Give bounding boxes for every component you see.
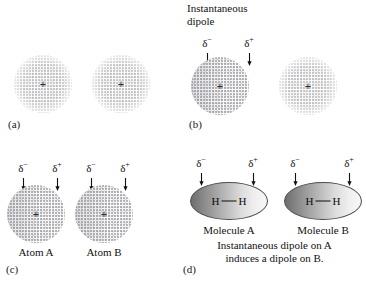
subcaption-line-1: Instantaneous dipole on A: [183, 239, 366, 252]
heading-line-2: dipole: [187, 15, 247, 28]
hydrogen-atom-left: H: [306, 196, 314, 207]
hydrogen-atom-right: H: [333, 196, 341, 207]
electron-cloud-b-left: +: [191, 57, 249, 115]
molecule-a-label: Molecule A: [189, 224, 269, 236]
molecule-a: H H: [190, 182, 268, 220]
delta-negative-symbol: δ−: [202, 37, 212, 49]
delta-negative-symbol: δ−: [18, 162, 28, 174]
arrow-down-icon: [122, 178, 129, 191]
panel-c: δ− δ+ δ− δ+: [0, 140, 183, 281]
charge-label-delta-positive-molecule-b: δ+: [338, 153, 360, 186]
molecule-b-label: Molecule B: [283, 224, 363, 236]
charge-label-delta-positive-molecule-a: δ+: [242, 153, 264, 186]
arrow-down-icon: [292, 173, 299, 186]
charge-label-delta-positive-atom-b: δ+: [114, 158, 136, 191]
covalent-bond-icon: [316, 201, 331, 202]
electron-cloud-atom-b: +: [75, 185, 133, 243]
arrow-down-icon: [246, 53, 253, 66]
dipole-figure: + + (a) Instantaneous dipole δ− δ+: [0, 0, 366, 281]
arrow-down-icon: [198, 173, 205, 186]
electron-cloud-a-right: +: [92, 55, 150, 113]
nucleus-icon: +: [217, 81, 223, 92]
atom-a-label: Atom A: [6, 246, 66, 258]
panel-label-c: (c): [6, 263, 18, 275]
panel-label-b: (b): [189, 118, 202, 130]
heading-line-1: Instantaneous: [187, 2, 247, 15]
hydrogen-atom-right: H: [239, 196, 247, 207]
nucleus-icon: +: [305, 81, 311, 92]
delta-negative-symbol: δ−: [290, 157, 300, 169]
panel-b: Instantaneous dipole δ− δ+ + + (b): [183, 0, 366, 140]
electron-cloud-a-left: +: [14, 55, 72, 113]
charge-label-delta-negative-molecule-b: δ−: [284, 153, 306, 186]
charge-label-delta-positive-b: δ+: [238, 33, 260, 66]
delta-positive-symbol: δ+: [244, 37, 254, 49]
charge-label-delta-negative-molecule-a: δ−: [190, 153, 212, 186]
panel-d-subcaption: Instantaneous dipole on A induces a dipo…: [183, 239, 366, 265]
nucleus-icon: +: [101, 209, 107, 220]
arrow-down-icon: [250, 173, 257, 186]
arrow-down-icon: [346, 173, 353, 186]
subcaption-line-2: induces a dipole on B.: [183, 252, 366, 265]
electron-cloud-atom-a: +: [7, 185, 65, 243]
delta-positive-symbol: δ+: [120, 162, 130, 174]
panel-a: + + (a): [0, 0, 183, 140]
instantaneous-dipole-heading: Instantaneous dipole: [187, 2, 247, 27]
electron-cloud-b-right: +: [279, 57, 337, 115]
molecule-b: H H: [284, 182, 362, 220]
arrow-down-icon: [54, 178, 61, 191]
atom-b-label: Atom B: [74, 246, 134, 258]
hydrogen-atom-left: H: [212, 196, 220, 207]
delta-positive-symbol: δ+: [248, 157, 258, 169]
delta-positive-symbol: δ+: [344, 157, 354, 169]
hydrogen-bond-group: H H: [212, 196, 247, 207]
covalent-bond-icon: [222, 201, 237, 202]
delta-negative-symbol: δ−: [196, 157, 206, 169]
nucleus-icon: +: [118, 79, 124, 90]
delta-positive-symbol: δ+: [52, 162, 62, 174]
panel-d: δ− δ+ δ− δ+: [183, 140, 366, 281]
panel-label-a: (a): [8, 118, 20, 130]
nucleus-icon: +: [40, 79, 46, 90]
delta-negative-symbol: δ−: [86, 162, 96, 174]
nucleus-icon: +: [33, 209, 39, 220]
panel-label-d: (d): [183, 263, 196, 275]
hydrogen-bond-group: H H: [306, 196, 341, 207]
charge-label-delta-positive-atom-a: δ+: [46, 158, 68, 191]
